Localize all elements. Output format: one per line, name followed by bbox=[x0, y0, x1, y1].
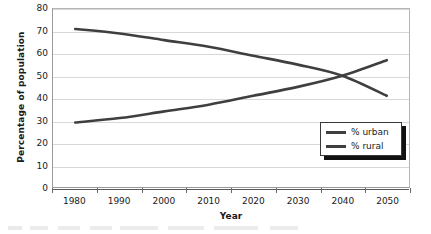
y-axis-tick-label: 40 bbox=[24, 94, 48, 103]
legend-line-swatch-icon bbox=[326, 145, 346, 148]
x-axis-tick-mark bbox=[410, 188, 411, 193]
series-line-rural bbox=[75, 29, 387, 96]
x-axis-tick-labels: 19801990200020102020203020402050 bbox=[52, 195, 410, 209]
legend-label-rural: % rural bbox=[351, 141, 384, 151]
x-axis-tick-label: 2030 bbox=[276, 195, 320, 207]
page-text-artifact bbox=[8, 226, 298, 230]
x-axis-tick-label: 2010 bbox=[187, 195, 231, 207]
legend-label-urban: % urban bbox=[351, 127, 389, 137]
y-axis-tick-label: 0 bbox=[24, 184, 48, 193]
x-axis-tick-mark bbox=[52, 188, 53, 193]
x-axis-title: Year bbox=[52, 211, 410, 222]
x-axis-tick-label: 1980 bbox=[52, 195, 96, 207]
x-axis-tick-label: 2020 bbox=[231, 195, 275, 207]
line-chart: Percentage of population 010203040506070… bbox=[0, 0, 431, 234]
plot-area bbox=[52, 8, 410, 188]
legend-box: % urban % rural bbox=[320, 122, 402, 156]
x-axis-tick-label: 2040 bbox=[321, 195, 365, 207]
series-line-urban bbox=[75, 60, 387, 122]
x-axis-tick-label: 1990 bbox=[97, 195, 141, 207]
y-axis-tick-labels: 01020304050607080 bbox=[24, 8, 48, 188]
x-axis-tick-mark bbox=[142, 188, 143, 193]
x-axis-tick-mark bbox=[97, 188, 98, 193]
plot-inner bbox=[53, 9, 409, 187]
legend: % urban % rural bbox=[320, 122, 406, 160]
legend-item-urban: % urban bbox=[326, 125, 389, 139]
x-axis-tick-mark bbox=[276, 188, 277, 193]
y-axis-tick-label: 70 bbox=[24, 27, 48, 36]
x-axis-tick-mark bbox=[365, 188, 366, 193]
y-axis-tick-label: 60 bbox=[24, 49, 48, 58]
x-axis-tick-label: 2050 bbox=[366, 195, 410, 207]
x-axis-tick-mark bbox=[231, 188, 232, 193]
x-axis-tick-mark bbox=[321, 188, 322, 193]
legend-item-rural: % rural bbox=[326, 139, 384, 153]
x-axis-tick-label: 2000 bbox=[142, 195, 186, 207]
y-axis-tick-label: 20 bbox=[24, 139, 48, 148]
y-axis-tick-label: 80 bbox=[24, 4, 48, 13]
y-axis-tick-label: 10 bbox=[24, 162, 48, 171]
x-axis-tick-marks bbox=[52, 188, 410, 194]
y-axis-tick-label: 30 bbox=[24, 117, 48, 126]
series-lines bbox=[53, 9, 409, 187]
legend-line-swatch-icon bbox=[326, 131, 346, 134]
y-axis-tick-label: 50 bbox=[24, 72, 48, 81]
x-axis-tick-mark bbox=[186, 188, 187, 193]
